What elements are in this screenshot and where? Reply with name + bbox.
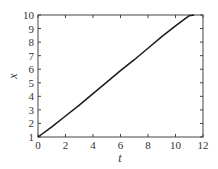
line-chart: 024681012 12345678910 t x [0,0,218,169]
x-tick-label: 12 [198,139,209,151]
y-tick-label: 1 [29,131,35,143]
series-line [38,15,194,137]
x-axis-label: t [118,151,122,165]
x-tick-label: 10 [170,139,182,151]
y-tick-label: 2 [29,117,35,129]
x-tick-label: 8 [145,139,151,151]
x-tick-label: 6 [118,139,124,151]
x-axis-ticks: 024681012 [35,15,208,151]
y-axis-label: x [6,73,20,80]
y-tick-label: 6 [29,63,35,75]
y-tick-label: 7 [29,50,35,62]
y-tick-label: 4 [29,90,35,102]
x-tick-label: 2 [63,139,69,151]
y-tick-label: 3 [29,104,35,116]
y-tick-label: 10 [23,9,35,21]
y-tick-label: 5 [29,77,35,89]
x-tick-label: 0 [35,139,41,151]
x-tick-label: 4 [90,139,96,151]
y-tick-label: 9 [29,23,35,35]
series-lines [38,15,194,137]
y-tick-label: 8 [29,36,35,48]
